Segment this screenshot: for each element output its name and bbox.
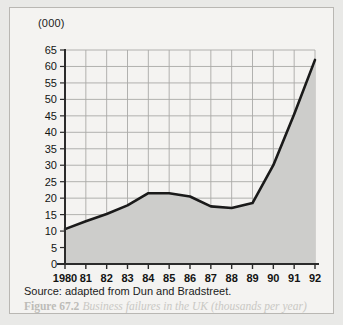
y-tick-label: 50 (21, 94, 57, 104)
area-chart (10, 8, 335, 276)
plot-area: 65605550454035302520151050 1980818283848… (10, 8, 335, 276)
x-tick-label: 87 (205, 272, 217, 284)
y-tick-label: 45 (21, 111, 57, 121)
caption-figure-number: Figure 67.2 (24, 300, 79, 312)
x-tick-label: 88 (226, 272, 238, 284)
y-tick-label: 25 (21, 177, 57, 187)
x-tick-label: 85 (163, 272, 175, 284)
y-tick-label: 65 (21, 45, 57, 55)
figure-card: (000) 65605550454035302520151050 1980818… (9, 7, 334, 314)
x-tick-label: 82 (101, 272, 113, 284)
y-tick-label: 40 (21, 127, 57, 137)
y-tick-label: 20 (21, 193, 57, 203)
figure-caption: Figure 67.2 Business failures in the UK … (24, 300, 307, 312)
x-tick-label: 1980 (53, 272, 77, 284)
x-tick-label: 91 (288, 272, 300, 284)
y-tick-label: 5 (21, 243, 57, 253)
x-tick-label: 81 (80, 272, 92, 284)
y-tick-label: 10 (21, 226, 57, 236)
y-tick-label: 35 (21, 144, 57, 154)
y-axis-ticks: 65605550454035302520151050 (10, 8, 57, 276)
x-tick-label: 92 (309, 272, 321, 284)
x-tick-label: 86 (184, 272, 196, 284)
y-tick-label: 55 (21, 78, 57, 88)
x-tick-label: 90 (267, 272, 279, 284)
x-tick-label: 89 (246, 272, 258, 284)
y-tick-label: 30 (21, 160, 57, 170)
caption-description: Business failures in the UK (thousands p… (83, 300, 307, 312)
y-tick-label: 60 (21, 61, 57, 71)
x-tick-label: 84 (142, 272, 154, 284)
y-tick-label: 0 (21, 259, 57, 269)
source-note: Source: adapted from Dun and Bradstreet. (24, 285, 231, 297)
y-tick-label: 15 (21, 210, 57, 220)
x-tick-label: 83 (121, 272, 133, 284)
